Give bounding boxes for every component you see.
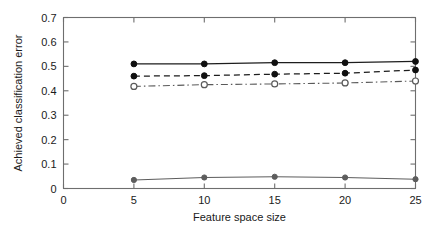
x-tick-label: 10 <box>198 194 210 206</box>
x-axis-title: Feature space size <box>193 211 286 223</box>
y-tick-label: 0.2 <box>41 134 56 146</box>
chart-figure: 00.10.20.30.40.50.60.70510152025Feature … <box>0 0 439 232</box>
data-point-s3-x25 <box>413 78 419 84</box>
data-point-s1-x5 <box>131 61 137 67</box>
x-tick-label: 0 <box>60 194 66 206</box>
y-tick-label: 0.4 <box>41 85 56 97</box>
data-point-s2-x10 <box>201 73 207 79</box>
data-point-s2-x5 <box>131 73 137 79</box>
data-point-s1-x20 <box>342 60 348 66</box>
y-tick-label: 0.5 <box>41 60 56 72</box>
data-point-s2-x25 <box>413 67 419 73</box>
data-point-s4-x5 <box>131 177 136 182</box>
data-point-s4-x20 <box>343 175 348 180</box>
y-tick-label: 0.7 <box>41 12 56 24</box>
x-tick-label: 25 <box>409 194 421 206</box>
data-point-s3-x15 <box>272 81 278 87</box>
classification-error-line-chart: 00.10.20.30.40.50.60.70510152025Feature … <box>0 0 439 232</box>
data-point-s2-x15 <box>272 71 278 77</box>
data-point-s1-x10 <box>201 61 207 67</box>
x-tick-label: 15 <box>269 194 281 206</box>
y-tick-label: 0.3 <box>41 109 56 121</box>
data-point-s3-x20 <box>342 80 348 86</box>
y-tick-label: 0.6 <box>41 36 56 48</box>
data-point-s1-x25 <box>413 59 419 65</box>
y-axis-title: Achieved classification error <box>12 34 24 171</box>
y-tick-label: 0.1 <box>41 158 56 170</box>
data-point-s4-x15 <box>272 174 277 179</box>
y-tick-label: 0 <box>50 183 56 195</box>
data-point-s4-x10 <box>202 175 207 180</box>
data-point-s2-x20 <box>342 70 348 76</box>
x-tick-label: 5 <box>131 194 137 206</box>
data-point-s3-x10 <box>201 82 207 88</box>
data-point-s3-x5 <box>131 83 137 89</box>
data-point-s4-x25 <box>413 177 418 182</box>
data-point-s1-x15 <box>272 60 278 66</box>
x-tick-label: 20 <box>339 194 351 206</box>
